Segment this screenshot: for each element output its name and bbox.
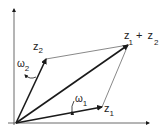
vector-addition-diagram: z2 ω2 ω1 z1 z1+z2 xyxy=(0,0,161,135)
label-omega1: ω1 xyxy=(75,93,88,108)
omega1-arc xyxy=(72,101,74,112)
label-z2: z2 xyxy=(33,40,44,55)
label-omega2: ω2 xyxy=(17,58,30,73)
parallelogram-top-side xyxy=(46,45,128,59)
vector-z1 xyxy=(16,107,102,123)
label-sum: z1+z2 xyxy=(124,29,159,47)
omega2-arc xyxy=(25,75,36,78)
label-z1: z1 xyxy=(104,102,115,118)
